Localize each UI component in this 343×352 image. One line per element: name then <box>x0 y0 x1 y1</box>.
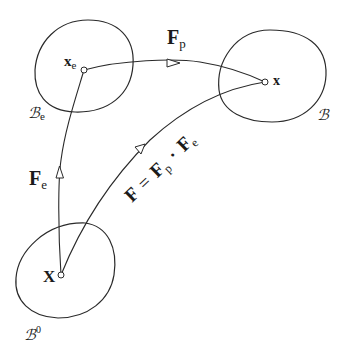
reference-configuration-boundary <box>16 223 115 318</box>
deformation-diagram: xe x X ℬe ℬ ℬ0 Fp Fe F = Fp · Fe <box>0 0 343 352</box>
plastic-mapping-label: Fp <box>167 26 186 51</box>
svg-text:F = Fp ·: F = Fp · Fe <box>120 129 202 209</box>
elastic-mapping-curve <box>59 70 84 275</box>
elastic-mapping-arrowhead <box>56 166 64 178</box>
intermediate-point-label: xe <box>64 53 77 71</box>
intermediate-configuration-label: ℬe <box>28 105 45 122</box>
total-mapping-label: F = Fp · Fe <box>120 129 202 209</box>
intermediate-configuration-boundary <box>35 20 133 112</box>
current-point-marker <box>262 79 268 85</box>
current-configuration-label: ℬ <box>317 107 330 123</box>
total-mapping-arrowhead <box>135 144 145 154</box>
reference-configuration-label: ℬ0 <box>24 324 41 343</box>
reference-point-marker <box>58 272 64 278</box>
reference-point-label: X <box>43 267 56 286</box>
current-point-label: x <box>273 73 280 88</box>
elastic-mapping-label: Fe <box>29 167 47 192</box>
intermediate-point-marker <box>81 67 87 73</box>
